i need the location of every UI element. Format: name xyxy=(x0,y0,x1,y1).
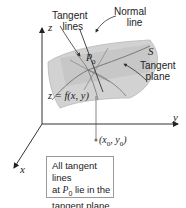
normal-line-label: Normal line xyxy=(114,6,146,28)
callout-line2: at P0 lie in the xyxy=(52,184,113,200)
equation-label: z = f(x, y) xyxy=(48,90,89,101)
tangent-plane-word2: plane xyxy=(146,71,170,82)
callout-box: All tangent lines at P0 lie in the tange… xyxy=(46,156,114,198)
base-y: , y xyxy=(110,134,119,145)
base-close: ) xyxy=(123,134,126,145)
callout-lie: lie in the xyxy=(72,184,110,195)
point-p0-label: P0 xyxy=(86,52,96,66)
callout-line3: tangent plane. xyxy=(52,200,113,208)
base-point-label: (x0, y0) xyxy=(99,134,127,148)
surface-label: S xyxy=(148,45,154,57)
z-axis-label: z xyxy=(48,21,52,33)
tangent-lines-label: Tangent lines xyxy=(52,10,88,32)
callout-at: at xyxy=(52,184,63,195)
base-point-dot xyxy=(94,138,97,141)
x-axis-label: x xyxy=(20,163,25,175)
x-axis xyxy=(14,124,42,168)
tangent-lines-word1: Tangent xyxy=(52,10,88,21)
tangent-plane-label: Tangent plane xyxy=(140,60,176,82)
point-subscript: 0 xyxy=(92,58,96,66)
y-axis-label: y xyxy=(173,111,178,123)
normal-line-word1: Normal xyxy=(114,6,146,17)
tangent-plane-word1: Tangent xyxy=(140,60,176,71)
tangent-lines-word2: lines xyxy=(57,21,84,32)
callout-line1: All tangent lines xyxy=(52,160,113,184)
normal-line-word2: line xyxy=(118,17,143,28)
base-x: (x xyxy=(99,134,107,145)
